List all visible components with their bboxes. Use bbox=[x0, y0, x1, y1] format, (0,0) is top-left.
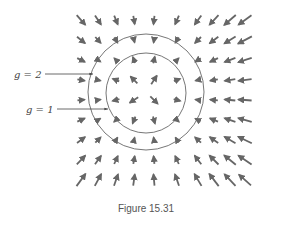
field-arrow bbox=[77, 58, 85, 62]
field-arrow bbox=[175, 37, 178, 42]
field-arrow bbox=[196, 79, 201, 80]
field-arrow bbox=[238, 137, 252, 144]
field-arrow bbox=[224, 37, 235, 44]
field-arrow bbox=[115, 138, 118, 143]
field-arrow bbox=[195, 137, 201, 142]
field-arrow bbox=[95, 174, 101, 186]
field-arrow bbox=[196, 100, 201, 101]
field-arrow bbox=[95, 137, 100, 142]
field-arrow bbox=[133, 156, 134, 164]
field-arrow bbox=[238, 79, 251, 81]
field-arrow bbox=[210, 37, 219, 44]
field-arrow bbox=[175, 118, 179, 121]
field-arrow bbox=[133, 38, 134, 43]
inner-circle bbox=[106, 53, 186, 133]
level-curve-labels: g = 2g = 1 bbox=[14, 69, 108, 115]
field-arrow bbox=[225, 100, 236, 101]
level-curves bbox=[88, 34, 204, 150]
field-arrow bbox=[195, 58, 200, 61]
field-arrow bbox=[153, 116, 155, 123]
field-arrow bbox=[175, 58, 178, 62]
field-arrow bbox=[239, 175, 251, 186]
field-arrow bbox=[225, 137, 236, 143]
field-arrow bbox=[175, 174, 179, 185]
field-arrow bbox=[113, 99, 120, 101]
field-arrow bbox=[225, 118, 236, 122]
field-arrow bbox=[210, 100, 218, 101]
field-arrow bbox=[154, 156, 155, 164]
field-arrow bbox=[131, 77, 138, 84]
field-arrow bbox=[154, 174, 155, 185]
field-arrow bbox=[209, 174, 218, 186]
level-label: g = 2 bbox=[14, 69, 42, 80]
field-arrow bbox=[133, 138, 134, 143]
field-arrow bbox=[175, 156, 179, 164]
field-arrow bbox=[133, 117, 136, 124]
field-arrow bbox=[95, 156, 101, 164]
field-arrow bbox=[77, 15, 86, 25]
field-arrow bbox=[150, 96, 157, 103]
field-arrow bbox=[96, 100, 101, 101]
field-arrow bbox=[238, 156, 251, 165]
field-arrow bbox=[224, 15, 236, 25]
field-arrow bbox=[224, 155, 236, 164]
field-arrow bbox=[96, 79, 101, 80]
field-arrow bbox=[225, 174, 236, 186]
field-arrow bbox=[77, 79, 84, 80]
field-arrow bbox=[239, 15, 252, 24]
field-arrow bbox=[77, 118, 84, 121]
vector-field-arrows bbox=[77, 15, 252, 186]
field-arrow bbox=[96, 119, 101, 122]
field-arrow bbox=[225, 79, 236, 81]
field-arrow bbox=[238, 36, 252, 43]
level-label: g = 1 bbox=[26, 104, 54, 115]
field-arrow bbox=[130, 97, 138, 103]
field-arrow bbox=[114, 58, 117, 62]
vector-field-diagram: g = 2g = 1 bbox=[0, 0, 288, 228]
field-arrow bbox=[210, 156, 219, 165]
field-arrow bbox=[238, 118, 251, 122]
field-arrow bbox=[174, 79, 180, 81]
field-arrow bbox=[195, 15, 202, 24]
field-arrow bbox=[238, 58, 251, 62]
field-arrow bbox=[95, 37, 100, 43]
field-arrow bbox=[114, 174, 118, 185]
field-arrow bbox=[210, 118, 218, 121]
field-arrow bbox=[195, 174, 202, 186]
field-arrow bbox=[113, 79, 119, 82]
field-arrow bbox=[114, 16, 118, 25]
field-arrow bbox=[210, 58, 218, 62]
field-arrow bbox=[210, 79, 218, 80]
field-arrow bbox=[77, 37, 85, 43]
field-arrow bbox=[154, 138, 155, 143]
figure-caption: Figure 15.31 bbox=[0, 203, 288, 214]
field-arrow bbox=[133, 57, 135, 63]
field-arrow bbox=[95, 16, 101, 25]
field-arrow bbox=[78, 100, 85, 101]
field-arrow bbox=[154, 16, 155, 24]
field-arrow bbox=[154, 38, 155, 43]
field-arrow bbox=[210, 15, 219, 25]
field-arrow bbox=[238, 100, 251, 101]
field-arrow bbox=[210, 137, 218, 143]
field-arrow bbox=[133, 16, 134, 24]
field-arrow bbox=[195, 37, 201, 43]
field-arrow bbox=[175, 16, 179, 25]
field-arrow bbox=[114, 156, 118, 164]
field-arrow bbox=[174, 99, 181, 101]
field-arrow bbox=[151, 76, 157, 84]
field-arrow bbox=[195, 156, 202, 165]
field-arrow bbox=[77, 174, 86, 186]
field-arrow bbox=[225, 58, 236, 62]
field-arrow bbox=[133, 174, 135, 185]
field-arrow bbox=[77, 137, 85, 143]
field-arrow bbox=[153, 57, 155, 64]
field-arrow bbox=[77, 156, 85, 165]
